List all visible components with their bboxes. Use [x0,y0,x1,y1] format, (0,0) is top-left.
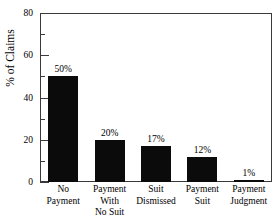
bar-group: 12% [187,13,217,182]
bar [234,180,264,183]
x-axis-label-line: Suit [179,196,225,208]
bar-group: 20% [95,13,125,182]
x-axis-label-line: Payment [226,184,272,196]
x-axis-label-line: Payment [179,184,225,196]
y-tick-label: 60 [0,50,38,60]
bar-group: 1% [234,13,264,182]
x-axis-label-line: Payment [86,184,132,196]
x-axis-label-line: No [40,184,86,196]
y-tick-label: 80 [0,8,38,18]
bar [187,157,217,182]
bar-value-label: 50% [48,64,78,74]
bar-value-label: 20% [95,128,125,138]
x-axis-label: PaymentWithNo Suit [86,184,132,219]
x-axis-label-line: Judgment [226,196,272,208]
y-tick-label: 40 [0,93,38,103]
bar-value-label: 17% [141,134,171,144]
y-tick-label: 20 [0,135,38,145]
bar-group: 50% [48,13,78,182]
bar [48,76,78,182]
x-axis-label: SuitDismissed [133,184,179,207]
x-axis-label-line: Suit [133,184,179,196]
x-axis-label-line: Payment [40,196,86,208]
x-axis-label: NoPayment [40,184,86,207]
bar-value-label: 12% [187,145,217,155]
bar [141,146,171,182]
bar-value-label: 1% [234,168,264,178]
y-tick-mark [40,182,49,183]
bar-group: 17% [141,13,171,182]
x-axis-label-line: No Suit [86,207,132,219]
x-axis-labels: NoPaymentPaymentWithNo SuitSuitDismissed… [40,184,272,223]
x-axis-label: PaymentJudgment [226,184,272,207]
x-axis-label-line: With [86,196,132,208]
bars-layer: 50%20%17%12%1% [40,13,272,182]
x-axis-label-line: Dismissed [133,196,179,208]
y-tick-label: 0 [0,177,38,187]
bar-chart: % of Claims 020406080 50%20%17%12%1% NoP… [0,0,280,223]
x-axis-label: PaymentSuit [179,184,225,207]
bar [95,140,125,182]
